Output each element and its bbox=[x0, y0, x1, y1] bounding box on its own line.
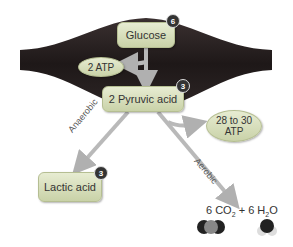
glucose-node: Glucose bbox=[117, 22, 175, 48]
products-formula: 6 CO2 + 6 H2O bbox=[206, 204, 278, 218]
atp-2-label: 2 ATP bbox=[88, 62, 115, 73]
co2-molecule bbox=[197, 220, 225, 234]
pyruvic-carbon-badge: 3 bbox=[176, 79, 190, 93]
atp-2-node: 2 ATP bbox=[78, 57, 124, 77]
pyruvic-acid-label: 2 Pyruvic acid bbox=[109, 93, 177, 105]
atp-28-30-line2: ATP bbox=[225, 126, 244, 137]
glucose-carbon-badge: 6 bbox=[166, 14, 180, 28]
glycolysis-diagram: Glucose 6 2 ATP 2 Pyruvic acid 3 28 to 3… bbox=[0, 0, 293, 247]
h2o-tail: O bbox=[269, 204, 278, 216]
plus-sign: + bbox=[236, 204, 249, 216]
arrow-to-2atp bbox=[126, 62, 146, 64]
lactic-acid-label: Lactic acid bbox=[44, 181, 96, 193]
co2-coef: 6 CO bbox=[206, 204, 232, 216]
lactic-acid-node: Lactic acid bbox=[38, 172, 102, 202]
lactic-carbon-badge: 3 bbox=[94, 166, 108, 180]
h2o-molecule bbox=[257, 219, 277, 236]
atp-28-30-node: 28 to 30 ATP bbox=[206, 110, 262, 142]
pyruvic-acid-node: 2 Pyruvic acid bbox=[102, 86, 184, 112]
arrow-anaerobic bbox=[80, 112, 128, 166]
atp-28-30-line1: 28 to 30 bbox=[216, 115, 252, 126]
h2o-coef: 6 H bbox=[248, 204, 265, 216]
glucose-label: Glucose bbox=[126, 29, 166, 41]
arrow-to-28atp bbox=[168, 122, 196, 126]
